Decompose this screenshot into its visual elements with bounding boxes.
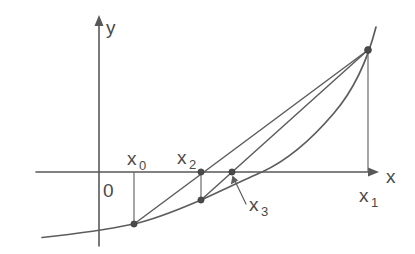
figure-root: x y 0 x 0 x 2 x 3 x 1	[0, 0, 415, 254]
label-x2-base: x	[177, 147, 187, 168]
point-x2-axis	[198, 169, 204, 175]
origin-label: 0	[103, 180, 114, 201]
y-axis-arrow-icon	[95, 15, 104, 26]
label-x3-sub: 3	[261, 204, 268, 219]
label-x0: x 0	[127, 148, 146, 173]
x-axis-label: x	[386, 166, 396, 187]
point-f-x2	[198, 197, 204, 203]
label-x2: x 2	[177, 147, 196, 172]
label-x3: x 3	[249, 194, 268, 219]
label-x1: x 1	[359, 185, 378, 210]
point-x3-axis	[229, 169, 235, 175]
x-axis-arrow-icon	[368, 168, 379, 177]
x3-pointer-line	[235, 180, 247, 204]
function-curve	[42, 27, 376, 238]
label-x1-sub: 1	[371, 195, 378, 210]
label-x3-base: x	[249, 194, 259, 215]
label-x0-sub: 0	[139, 158, 146, 173]
y-axis-label: y	[106, 17, 116, 38]
point-f-x1	[365, 47, 372, 54]
point-f-x0	[131, 221, 137, 227]
secant-line-x2-x1	[201, 50, 368, 200]
label-x1-base: x	[359, 185, 369, 206]
y-axis	[95, 15, 104, 246]
label-x2-sub: 2	[189, 157, 196, 172]
label-x0-base: x	[127, 148, 137, 169]
secant-method-diagram: x y 0 x 0 x 2 x 3 x 1	[0, 0, 415, 254]
